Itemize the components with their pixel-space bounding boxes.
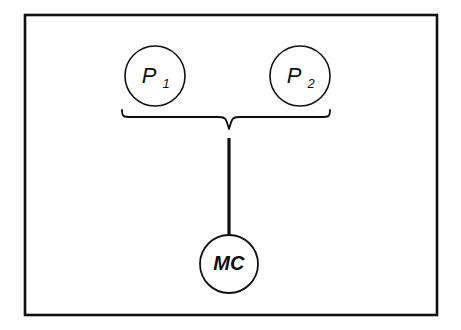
diagram-svg: P 1 P 2 MC — [0, 0, 461, 330]
figure-canvas: P 1 P 2 MC — [0, 0, 461, 330]
node-mc: MC — [200, 235, 258, 293]
node-p1-label: P — [142, 63, 157, 88]
node-p2-label: P — [287, 63, 302, 88]
node-p1-subscript: 1 — [162, 76, 169, 91]
node-mc-label: MC — [213, 252, 245, 274]
node-p2: P 2 — [270, 46, 330, 106]
node-p2-subscript: 2 — [306, 76, 315, 91]
node-p1: P 1 — [125, 46, 185, 106]
